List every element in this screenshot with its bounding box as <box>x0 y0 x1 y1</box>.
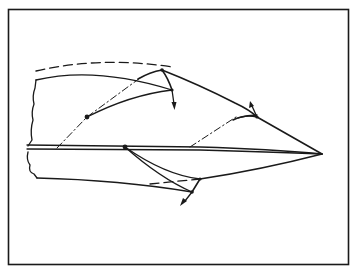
lower-trailing-edge <box>200 154 322 179</box>
upper-rotation-path <box>57 78 140 148</box>
right-rotation-path <box>190 117 236 147</box>
diagram-canvas <box>0 0 357 271</box>
upper-left-pivot-dot <box>85 115 90 120</box>
lower-flap-hinge-dot <box>198 177 201 180</box>
upper-flap-hinge-dot <box>160 68 164 72</box>
upper-flap-lower <box>87 90 172 117</box>
upper-flap-top <box>138 70 162 79</box>
arrow-down-left-icon <box>180 192 192 206</box>
upper-surface-line <box>36 75 172 90</box>
lower-flap-upper <box>125 147 200 179</box>
centerline-pivot-dot <box>123 145 128 150</box>
figure-frame <box>9 10 349 265</box>
upper-trailing-edge <box>162 70 322 154</box>
original-upper-edge-dashed <box>36 62 172 71</box>
left-break-line <box>27 80 37 178</box>
lower-flap-edge <box>192 179 200 192</box>
arrow-down-icon <box>172 90 177 110</box>
centerline-lower <box>27 149 322 154</box>
